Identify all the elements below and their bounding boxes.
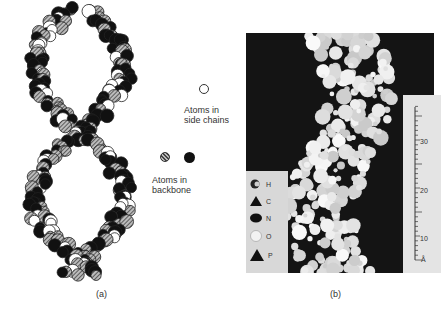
legend-label-p: P (268, 252, 273, 259)
panel-b-caption: (b) (330, 289, 341, 299)
legend-row-o: O (250, 230, 271, 242)
phosphorus-symbol-icon (250, 249, 264, 261)
backbone-label-line2: backbone (152, 185, 191, 195)
side-chain-legend-icon (199, 84, 209, 94)
side-chain-label-line2: side chains (184, 115, 229, 125)
carbon-symbol-icon (250, 196, 262, 206)
side-chain-legend-label: Atoms in side chains (184, 105, 229, 125)
oxygen-symbol-icon (250, 230, 262, 242)
backbone-legend-label: Atoms in backbone (152, 175, 191, 195)
scale-label-10: 10 (420, 235, 428, 242)
backbone-hatched-legend-icon (160, 152, 170, 162)
helix-drawing-illustration (0, 0, 160, 285)
scale-label-20: 20 (420, 187, 428, 194)
scale-label-30: 30 (420, 138, 428, 145)
panel-a-helix-drawing (0, 0, 160, 285)
side-chain-label-line1: Atoms in (184, 105, 229, 115)
angstrom-scale-bar: 30 20 10 Å (403, 95, 441, 273)
atom-type-legend: H C N O P (246, 171, 288, 273)
scale-ruler (403, 95, 441, 273)
legend-label-o: O (266, 233, 271, 240)
backbone-solid-legend-icon (184, 152, 195, 163)
legend-row-n: N (250, 213, 271, 223)
panel-a-caption: (a) (96, 289, 107, 299)
legend-label-h: H (266, 181, 271, 188)
legend-label-c: C (266, 198, 271, 205)
legend-row-c: C (250, 196, 271, 206)
hydrogen-symbol-icon (250, 179, 262, 189)
nitrogen-symbol-icon (250, 213, 262, 223)
legend-row-h: H (250, 179, 271, 189)
legend-label-n: N (266, 215, 271, 222)
backbone-label-line1: Atoms in (152, 175, 191, 185)
scale-label-angstrom: Å (421, 256, 426, 263)
legend-row-p: P (250, 249, 273, 261)
